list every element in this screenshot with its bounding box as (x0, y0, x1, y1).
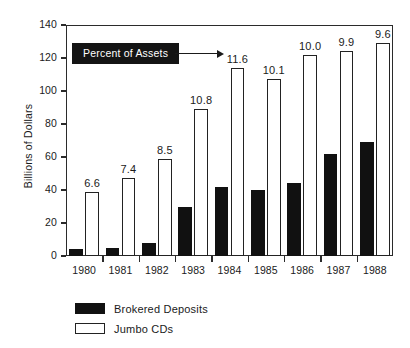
bar-jumbo-cds (122, 178, 136, 256)
x-axis-label-1980: 1980 (66, 264, 102, 276)
x-axis-label-1985: 1985 (248, 264, 284, 276)
legend-label: Brokered Deposits (114, 303, 208, 315)
x-axis-label-1988: 1988 (357, 264, 393, 276)
x-axis-tick (211, 256, 212, 262)
x-axis-tick (284, 256, 285, 262)
bar-brokered-deposits (69, 249, 83, 256)
data-value-label: 10.8 (181, 94, 221, 106)
bar-brokered-deposits (287, 183, 301, 256)
bar-brokered-deposits (324, 154, 338, 256)
bar-jumbo-cds (194, 109, 208, 256)
data-value-label: 10.1 (254, 64, 294, 76)
bar-jumbo-cds (267, 79, 281, 256)
x-axis-tick (139, 256, 140, 262)
legend-item-jumbo-cds: Jumbo CDs (75, 320, 208, 337)
y-tick-label: 140 (39, 18, 57, 30)
legend-swatch-light-icon (75, 323, 105, 334)
x-axis-tick (102, 256, 103, 262)
data-value-label: 8.5 (145, 144, 185, 156)
bar-chart-figure: Billions of Dollars 020406080100120140 6… (0, 0, 410, 348)
legend-label: Jumbo CDs (114, 323, 173, 335)
x-axis-label-1984: 1984 (211, 264, 247, 276)
x-axis-tick (320, 256, 321, 262)
bar-brokered-deposits (360, 142, 374, 256)
x-axis-label-1986: 1986 (284, 264, 320, 276)
bar-jumbo-cds (158, 159, 172, 256)
y-tick-label: 60 (45, 150, 57, 162)
bar-brokered-deposits (215, 187, 229, 256)
annotation-percent-of-assets: Percent of Assets (72, 43, 179, 64)
legend-item-brokered-deposits: Brokered Deposits (75, 300, 208, 317)
bar-jumbo-cds (231, 68, 245, 256)
annotation-arrow-line (175, 53, 219, 54)
legend-swatch-dark-icon (75, 303, 105, 314)
bar-jumbo-cds (303, 55, 317, 256)
data-value-label: 10.0 (290, 40, 330, 52)
x-axis-tick (357, 256, 358, 262)
bar-jumbo-cds (340, 51, 354, 256)
x-axis-label-1981: 1981 (102, 264, 138, 276)
y-tick-label: 120 (39, 51, 57, 63)
y-axis-title: Billions of Dollars (22, 66, 34, 226)
y-tick-label: 100 (39, 84, 57, 96)
data-value-label: 7.4 (109, 163, 149, 175)
data-value-label: 6.6 (72, 177, 112, 189)
data-value-label: 9.6 (363, 28, 403, 40)
x-axis-tick (248, 256, 249, 262)
y-tick-label: 20 (45, 216, 57, 228)
y-tick-label: 40 (45, 183, 57, 195)
x-axis-tick (175, 256, 176, 262)
bar-brokered-deposits (106, 248, 120, 256)
y-tick-label: 0 (51, 249, 57, 261)
bar-brokered-deposits (178, 207, 192, 257)
bar-brokered-deposits (251, 190, 265, 256)
chart-legend: Brokered Deposits Jumbo CDs (75, 300, 208, 340)
bar-jumbo-cds (376, 43, 390, 256)
bar-brokered-deposits (142, 243, 156, 256)
annotation-arrow-head (217, 50, 224, 58)
bar-jumbo-cds (85, 192, 99, 256)
x-axis-label-1982: 1982 (139, 264, 175, 276)
data-value-label: 9.9 (327, 36, 367, 48)
y-tick-label: 80 (45, 117, 57, 129)
x-axis-label-1983: 1983 (175, 264, 211, 276)
x-axis-label-1987: 1987 (320, 264, 356, 276)
